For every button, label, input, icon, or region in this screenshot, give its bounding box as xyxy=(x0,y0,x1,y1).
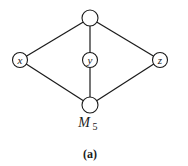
diagram-canvas: xyz M 5 (a) xyxy=(0,0,188,166)
node-bottom xyxy=(82,97,98,113)
lattice-name-subscript: 5 xyxy=(93,121,98,132)
node-circle-top xyxy=(82,10,98,26)
node-label-y: y xyxy=(87,54,93,66)
node-label-z: z xyxy=(157,54,163,66)
edge-top-x xyxy=(20,18,90,60)
node-circle-bottom xyxy=(82,97,98,113)
edge-top-z xyxy=(90,18,160,60)
node-label-x: x xyxy=(17,54,23,66)
node-top xyxy=(82,10,98,26)
node-z: z xyxy=(153,53,168,68)
figure-caption: (a) xyxy=(83,147,97,161)
node-y: y xyxy=(83,53,98,68)
edge-z-bottom xyxy=(90,60,160,105)
node-x: x xyxy=(13,53,28,68)
m5-lattice-diagram: xyz M 5 (a) xyxy=(0,0,188,166)
lattice-name: M xyxy=(77,115,91,130)
edge-x-bottom xyxy=(20,60,90,105)
lattice-name-label: M xyxy=(77,115,91,130)
nodes-group: xyz xyxy=(13,10,168,113)
